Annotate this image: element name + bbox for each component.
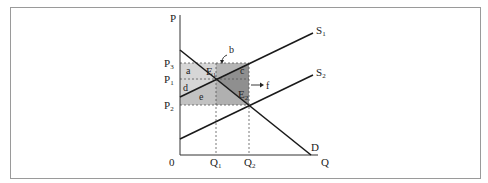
price-label-p2: P2 <box>164 99 174 113</box>
area-label-c: c <box>240 65 245 76</box>
area-label-f: f <box>266 80 270 91</box>
curve-label-s1: S1 <box>316 24 326 38</box>
area-label-a: a <box>186 65 191 76</box>
area-label-b: b <box>229 44 234 55</box>
area-label-e: e <box>199 91 204 102</box>
f-arrow-head-icon <box>260 83 264 88</box>
curve-label-d: D <box>311 141 319 153</box>
area-label-d: d <box>183 82 188 93</box>
quantity-label-q2: Q2 <box>244 156 256 170</box>
price-label-p1: P1 <box>164 73 174 87</box>
price-label-p3: P3 <box>164 57 174 71</box>
curve-label-s2: S2 <box>316 66 326 80</box>
quantity-label-q1: Q1 <box>210 156 222 170</box>
origin-label: 0 <box>169 156 175 168</box>
supply-demand-diagram: P Q 0 P3 P1 P2 Q1 Q2 S1 S2 D E1 E2 a b c… <box>0 0 488 183</box>
x-axis-label: Q <box>321 156 329 168</box>
y-axis-label: P <box>170 12 176 24</box>
